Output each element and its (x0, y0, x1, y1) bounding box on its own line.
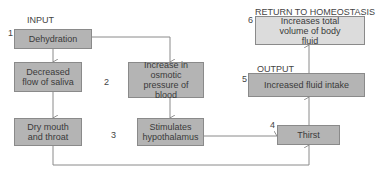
step-number-2: 2 (104, 77, 109, 87)
hypothalamus-box: Stimulates hypothalamus (137, 118, 204, 146)
step-number-6: 6 (248, 15, 253, 25)
fluid-intake-box: Increased fluid intake (248, 73, 365, 97)
step-number-4: 4 (270, 120, 275, 130)
dehydration-box: Dehydration (14, 29, 92, 49)
osmotic-pressure-box: Increase in osmotic pressure of blood (128, 62, 204, 98)
step-number-5: 5 (242, 74, 247, 84)
step-number-1: 1 (8, 28, 13, 38)
step-number-3: 3 (111, 130, 116, 140)
body-fluid-volume-box: Increases total volume of body fluid (255, 16, 365, 45)
decreased-saliva-box: Decreased flow of saliva (14, 62, 82, 92)
dry-mouth-box: Dry mouth and throat (14, 118, 82, 146)
input-label: INPUT (27, 15, 54, 25)
thirst-box: Thirst (277, 125, 340, 145)
